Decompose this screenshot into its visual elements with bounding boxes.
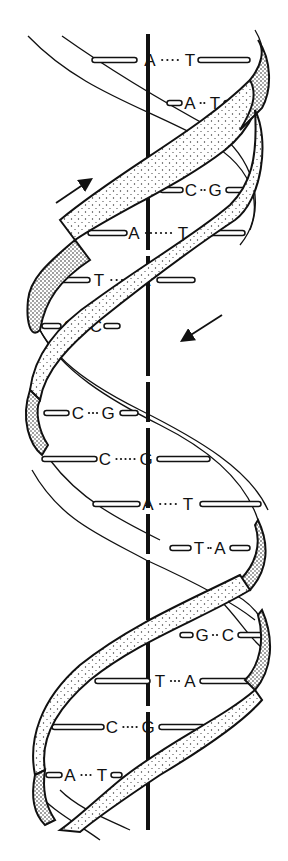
base-rung [170, 546, 191, 551]
dna-double-helix-diagram: ATATCGATTAGCCGCGATTAGCTACGAT [0, 0, 288, 861]
hydrogen-bond-dot [155, 232, 157, 234]
base-rung [198, 58, 250, 63]
hydrogen-bond-dot [115, 458, 117, 460]
base-rung [92, 58, 137, 63]
hydrogen-bond-dot [116, 279, 118, 281]
hydrogen-bond-dot [124, 458, 126, 460]
hydrogen-bond-dot [120, 458, 122, 460]
hydrogen-bond-dot [159, 503, 161, 505]
hydrogen-bond-dot [207, 547, 209, 549]
hydrogen-bond-dot [174, 680, 176, 682]
base-pair-row: TA [170, 539, 250, 558]
hydrogen-bond-dot [200, 102, 202, 104]
hydrogen-bond-dot [166, 59, 168, 61]
base-right: A [184, 672, 196, 691]
base-right: A [214, 539, 226, 558]
base-left: A [142, 495, 154, 514]
hydrogen-bond-dot [89, 774, 91, 776]
base-pair-row: CG [44, 404, 138, 423]
hydrogen-bond-dot [178, 680, 180, 682]
base-rung [157, 278, 195, 283]
base-rung [42, 457, 97, 462]
hydrogen-bond-dot [131, 726, 133, 728]
base-right: G [101, 404, 114, 423]
hydrogen-bond-dot [110, 279, 112, 281]
hydrogen-bond-dot [127, 726, 129, 728]
hydrogen-bond-dot [172, 59, 174, 61]
hydrogen-bond-dot [200, 189, 202, 191]
base-rung [93, 502, 140, 507]
base-left: C [106, 718, 118, 737]
base-rung [167, 101, 182, 106]
base-right: T [185, 51, 195, 70]
base-rung [180, 633, 193, 638]
hydrogen-bond-dot [177, 59, 179, 61]
base-left: C [72, 404, 84, 423]
base-rung [95, 679, 150, 684]
hydrogen-bond-dot [145, 232, 147, 234]
base-rung [120, 411, 138, 416]
hydrogen-bond-dot [164, 503, 166, 505]
hydrogen-bond-dot [161, 59, 163, 61]
base-right: T [97, 766, 107, 785]
hydrogen-bond-dot [170, 680, 172, 682]
base-pair-row: TA [95, 672, 252, 691]
base-pair-row: CG [42, 450, 210, 469]
base-left: C [99, 450, 111, 469]
hydrogen-bond-dot [175, 503, 177, 505]
base-rung [200, 502, 261, 507]
hydrogen-bond-dot [92, 412, 94, 414]
base-rung [104, 324, 120, 329]
hydrogen-bond-dot [85, 774, 87, 776]
hydrogen-bond-dot [122, 726, 124, 728]
base-pair-row: AT [92, 51, 250, 70]
hydrogen-bond-dot [203, 102, 205, 104]
base-left: A [184, 94, 196, 113]
base-pair-row: AT [93, 495, 261, 514]
base-left: T [94, 271, 104, 290]
hydrogen-bond-dot [216, 634, 218, 636]
base-left: A [128, 224, 140, 243]
hydrogen-bond-dot [88, 412, 90, 414]
base-right: G [141, 718, 154, 737]
hydrogen-bond-dot [133, 458, 135, 460]
base-left: T [194, 539, 204, 558]
base-left: C [185, 181, 197, 200]
base-rung [46, 773, 62, 778]
base-pair-row: CG [52, 718, 205, 737]
hydrogen-bond-dot [96, 412, 98, 414]
base-pair-row: AT [46, 766, 122, 785]
base-right: T [183, 495, 193, 514]
base-rung [230, 546, 250, 551]
base-rung [88, 231, 127, 236]
base-rung [157, 457, 210, 462]
hydrogen-bond-dot [210, 547, 212, 549]
hydrogen-bond-dot [80, 774, 82, 776]
base-rung [44, 411, 69, 416]
hydrogen-bond-dot [150, 232, 152, 234]
base-rung [111, 773, 122, 778]
base-rung [52, 725, 104, 730]
hydrogen-bond-dot [160, 232, 162, 234]
hydrogen-bond-dot [129, 458, 131, 460]
hydrogen-bond-dot [170, 232, 172, 234]
base-left: A [144, 51, 156, 70]
base-rung [200, 679, 252, 684]
hydrogen-bond-dot [204, 189, 206, 191]
hydrogen-bond-dot [212, 634, 214, 636]
base-left: T [155, 672, 165, 691]
hydrogen-bond-dot [170, 503, 172, 505]
hydrogen-bond-dot [165, 232, 167, 234]
base-right: C [222, 626, 234, 645]
base-rung [42, 324, 61, 329]
hydrogen-bond-dot [136, 726, 138, 728]
arrow-down-left-icon [183, 315, 222, 340]
base-left: G [195, 626, 208, 645]
base-left: A [64, 766, 76, 785]
base-pair-row: GC [180, 626, 265, 645]
base-right: G [208, 181, 221, 200]
base-right: G [139, 450, 152, 469]
